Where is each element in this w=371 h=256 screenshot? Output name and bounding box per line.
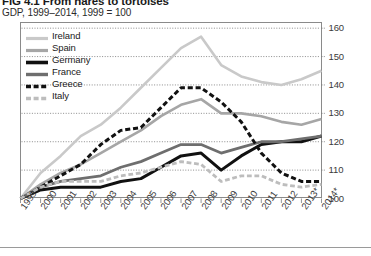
legend-label-france: France xyxy=(52,66,81,77)
legend-swatch-germany xyxy=(26,54,48,65)
figure-container: FIG 4.1 From hares to tortoises GDP, 199… xyxy=(0,0,371,256)
y-axis-label-160: 160 xyxy=(329,22,345,33)
legend-label-italy: Italy xyxy=(52,90,69,101)
legend-label-germany: Germany xyxy=(52,54,90,65)
y-axis-label-120: 120 xyxy=(329,136,345,147)
bottom-rule xyxy=(0,247,371,248)
legend-item-france: France xyxy=(26,66,90,77)
y-axis-label-150: 150 xyxy=(329,51,345,62)
legend-item-italy: Italy xyxy=(26,90,90,101)
legend-swatch-greece xyxy=(26,78,48,89)
legend-swatch-spain xyxy=(26,42,48,53)
legend-swatch-italy xyxy=(26,90,48,101)
legend-item-germany: Germany xyxy=(26,54,90,65)
legend: IrelandSpainGermanyFranceGreeceItaly xyxy=(26,30,90,101)
legend-item-ireland: Ireland xyxy=(26,30,90,41)
legend-label-greece: Greece xyxy=(52,78,83,89)
y-axis-label-110: 110 xyxy=(329,164,344,175)
legend-item-greece: Greece xyxy=(26,78,90,89)
legend-item-spain: Spain xyxy=(26,42,90,53)
legend-label-spain: Spain xyxy=(52,42,76,53)
legend-label-ireland: Ireland xyxy=(52,30,80,41)
y-axis-label-130: 130 xyxy=(329,107,345,118)
legend-swatch-ireland xyxy=(26,30,48,41)
legend-swatch-france xyxy=(26,66,48,77)
y-axis-label-140: 140 xyxy=(329,79,345,90)
